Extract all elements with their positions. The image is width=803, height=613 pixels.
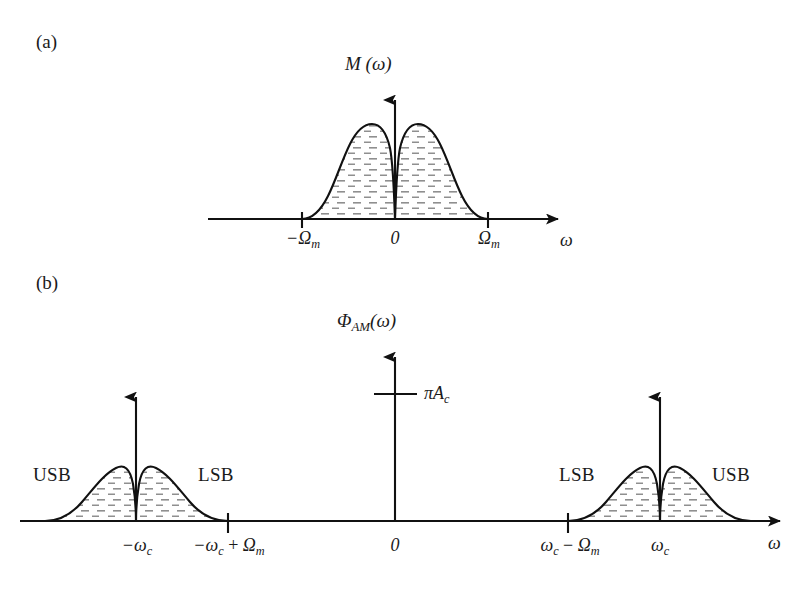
panel-b-y-axis-title-subscript: AM: [351, 319, 370, 334]
panel-a-y-axis-title: M (ω): [345, 53, 392, 75]
panel-b-y-axis-title: ΦAM(ω): [337, 310, 396, 332]
panel-a-tick-label-neg-omega-m: −Ωm: [278, 228, 328, 249]
panel-a-tick-label-pos-omega-m: Ωm: [465, 228, 513, 249]
panel-b-plot: [20, 357, 780, 533]
panel-a-tick-label-origin: 0: [375, 228, 415, 249]
panel-b-y-axis-title-tail: (ω): [370, 310, 396, 331]
panel-b-tick-label-omega-c-minus-omega-m: ωc − Ωm: [512, 535, 628, 556]
panel-b-y-axis-title-main: Φ: [337, 310, 351, 331]
panel-b-x-axis-title: ω: [768, 533, 781, 554]
panel-label-b: (b): [36, 272, 58, 294]
panel-b-impulse-value-label: πAc: [424, 383, 449, 404]
sideband-label-lsb-right: LSB: [559, 464, 595, 486]
panel-a-plot: [208, 100, 558, 228]
panel-label-a: (a): [36, 31, 57, 53]
panel-a-x-axis-title: ω: [560, 230, 573, 251]
am-spectrum-figure: (a) M (ω) −Ωm 0 Ωm ω (b) ΦAM(ω) πAc USB …: [0, 0, 803, 613]
panel-b-tick-label-origin: 0: [375, 535, 415, 556]
panel-b-tick-label-neg-omega-c-plus-omega-m: −ωc + Ωm: [168, 535, 290, 556]
sideband-label-usb-left: USB: [33, 464, 71, 486]
panel-b-tick-label-neg-omega-c: −ωc: [111, 535, 163, 556]
figure-canvas: [0, 0, 803, 613]
panel-b-tick-label-omega-c: ωc: [636, 535, 684, 556]
sideband-label-usb-right: USB: [712, 464, 750, 486]
sideband-label-lsb-left: LSB: [198, 464, 234, 486]
